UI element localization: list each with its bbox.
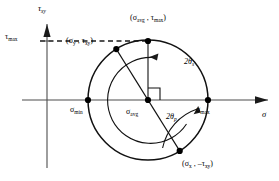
point-face-x-label: (σx , –τxy)	[182, 160, 213, 168]
mohr-circle-canvas	[0, 0, 279, 181]
point-face-y-label: (σy , τxy)	[66, 37, 93, 45]
point-sigma-max	[205, 97, 211, 103]
mohr-circle-figure: τxy σ τmax σmin σavg σmax (σavg , τmax) …	[0, 0, 279, 181]
sigma-axis-arrow-icon	[255, 96, 268, 104]
point-face-x	[177, 148, 183, 154]
point-sigma-min	[85, 97, 91, 103]
sigma-min-label: σmin	[70, 106, 83, 114]
angle-2theta-s-label: 2θs	[184, 58, 194, 66]
angle-2theta-p-label: 2θp	[166, 113, 177, 121]
sigma-max-label: σmax	[196, 106, 210, 114]
point-tau-max	[145, 38, 151, 44]
sigma-axis-label: σ	[262, 110, 266, 119]
tau-axis-arrow-icon	[43, 24, 50, 37]
point-tau-max-label: (σavg , τmax)	[130, 14, 166, 22]
tau-axis-label: τxy	[38, 4, 46, 13]
point-sigma-avg	[145, 97, 151, 103]
tau-max-label: τmax	[5, 33, 18, 41]
angle-2theta-s-arrowhead-icon	[150, 54, 159, 61]
point-face-y	[113, 46, 119, 52]
sigma-avg-label: σavg	[126, 108, 138, 116]
